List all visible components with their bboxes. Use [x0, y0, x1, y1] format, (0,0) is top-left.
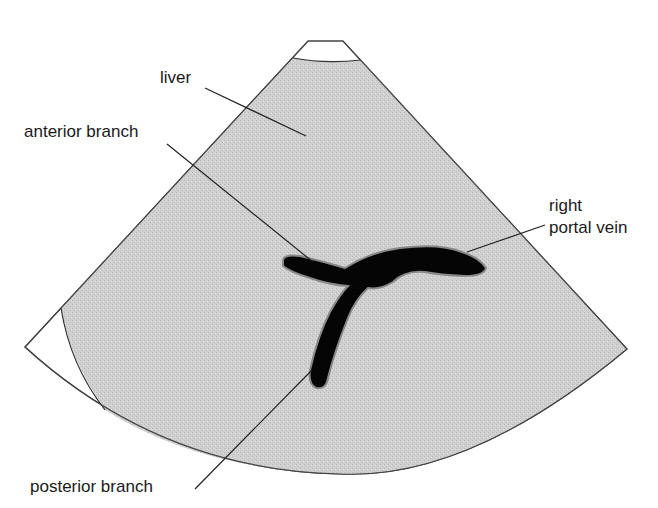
label-liver: liver — [160, 68, 191, 88]
label-right-portal-vein-line2: portal vein — [549, 218, 627, 238]
label-posterior-branch: posterior branch — [30, 477, 153, 497]
label-anterior-branch: anterior branch — [24, 122, 138, 142]
ultrasound-diagram — [0, 0, 658, 508]
liver-tissue — [61, 58, 627, 474]
label-right-portal-vein-line1: right — [549, 196, 582, 216]
